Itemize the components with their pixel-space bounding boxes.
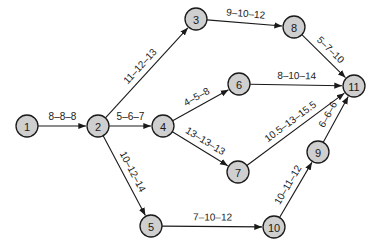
node-label: 4	[160, 121, 166, 133]
node-10: 10	[263, 216, 285, 238]
node-1: 1	[16, 115, 38, 137]
node-label: 8	[291, 22, 297, 34]
node-7: 7	[227, 161, 249, 183]
edge-label-7-11: 10.5–13–15.5	[262, 98, 318, 144]
node-label: 11	[348, 81, 359, 93]
edge-label-2-4: 5–6–7	[117, 111, 145, 122]
edge-label-5-10: 7–10–12	[193, 211, 232, 222]
node-11: 11	[343, 75, 365, 97]
node-label: 1	[24, 121, 30, 133]
node-9: 9	[307, 141, 329, 163]
node-label: 5	[148, 221, 154, 233]
edge-label-1-2: 8–8–8	[49, 111, 77, 122]
node-label: 7	[235, 167, 241, 179]
edge-label-4-6: 4–5–8	[182, 85, 212, 108]
node-4: 4	[152, 115, 174, 137]
node-label: 3	[193, 14, 199, 26]
node-6: 6	[228, 73, 250, 95]
edge-2-3	[105, 28, 187, 118]
node-label: 6	[236, 79, 242, 91]
node-8: 8	[283, 16, 305, 38]
nodes: 1234567891011	[16, 8, 365, 238]
edge-label-9-11: 6–6–6	[316, 99, 339, 129]
node-2: 2	[87, 115, 109, 137]
edge-3-8	[207, 20, 282, 26]
edge-label-8-11: 5–7–10	[315, 34, 347, 66]
node-label: 9	[315, 147, 321, 159]
edge-label-3-8: 9–10–12	[226, 6, 266, 20]
node-3: 3	[185, 8, 207, 30]
node-5: 5	[140, 215, 162, 237]
edge-5-10	[162, 226, 262, 227]
node-label: 2	[95, 121, 101, 133]
edge-6-11	[250, 84, 342, 86]
node-label: 10	[268, 222, 280, 234]
edge-label-6-11: 8–10–14	[277, 70, 317, 82]
edges: 8–8–811–12–135–6–710–12–149–10–124–5–813…	[38, 6, 348, 226]
network-diagram: 8–8–811–12–135–6–710–12–149–10–124–5–813…	[0, 0, 381, 252]
